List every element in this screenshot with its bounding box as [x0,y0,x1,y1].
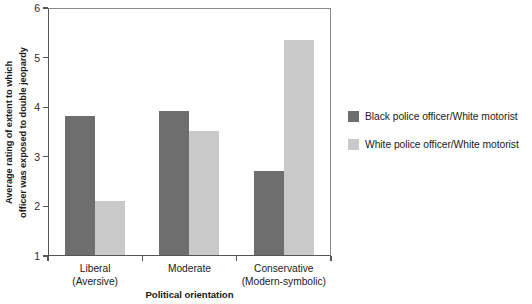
y-axis-tick: 4 [34,101,48,113]
x-axis-tick-mark [236,256,237,261]
legend-swatch-white-officer [348,139,359,150]
legend-swatch-black-officer [348,111,359,122]
y-axis-tick-label: 1 [34,250,43,262]
legend-label-black-officer: Black police officer/White motorist [365,111,518,122]
bar [65,116,95,255]
x-axis-category-label: Conservative(Modern-symbolic) [227,262,341,288]
y-axis-ticks: 123456 [0,0,48,264]
y-axis-tick: 6 [34,2,48,14]
x-axis-category-label-line: Conservative [227,262,341,275]
x-axis-category-label-line: (Aversive) [38,275,152,288]
legend-label-white-officer: White police officer/White motorist [365,139,519,150]
bar [159,111,189,255]
y-axis-tick-label: 4 [34,101,43,113]
plot-area [48,8,331,256]
y-axis-tick: 1 [34,250,48,262]
x-axis-tick-mark [330,256,331,261]
y-axis-tick-label: 5 [34,52,43,64]
bar [95,201,125,255]
x-axis-category-label-line: (Modern-symbolic) [227,275,341,288]
x-axis-title: Political orientation [48,289,331,300]
x-axis-tick-mark [47,256,48,261]
bar [254,171,284,255]
y-axis-tick-label: 2 [34,200,43,212]
x-axis-tick-mark [142,256,143,261]
y-axis-tick-label: 6 [34,2,43,14]
bar [189,131,219,255]
bar-chart-figure: Average rating of extent to which office… [0,0,532,304]
y-axis-tick: 2 [34,200,48,212]
legend-item: Black police officer/White motorist [348,110,519,122]
legend-item: White police officer/White motorist [348,138,519,150]
bar [284,40,314,255]
y-axis-tick: 3 [34,151,48,163]
y-axis-tick: 5 [34,52,48,64]
chart-legend: Black police officer/White motorist Whit… [348,110,519,166]
y-axis-tick-label: 3 [34,151,43,163]
